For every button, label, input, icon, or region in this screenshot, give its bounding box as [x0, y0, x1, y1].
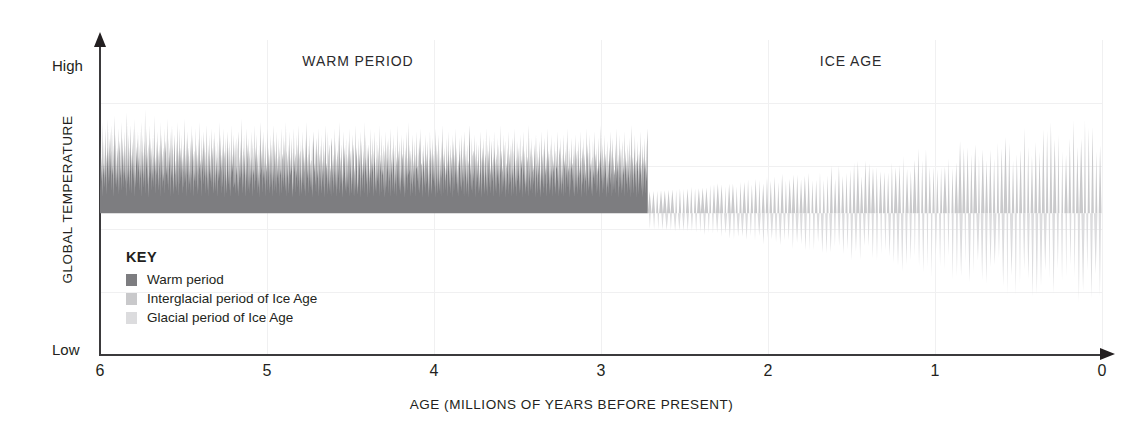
- x-axis-tick-0: 0: [1087, 362, 1117, 380]
- legend-items: Warm periodInterglacial period of Ice Ag…: [126, 272, 317, 325]
- gridline-vertical: [1102, 40, 1103, 354]
- warm-period-area: [100, 109, 648, 213]
- legend-item: Interglacial period of Ice Age: [126, 291, 317, 306]
- interglacial-period-area: [648, 120, 1102, 213]
- y-axis-title: GLOBAL TEMPERATURE: [60, 100, 75, 300]
- legend-swatch-icon: [126, 274, 137, 286]
- chart-page: High Low GLOBAL TEMPERATURE AGE (MILLION…: [0, 0, 1143, 431]
- glacial-period-area: [649, 213, 1101, 302]
- legend-item-label: Interglacial period of Ice Age: [147, 291, 317, 306]
- x-axis-tick-3: 3: [586, 362, 616, 380]
- x-axis-tick-6: 6: [85, 362, 115, 380]
- annotation-warm-period: WARM PERIOD: [302, 53, 413, 69]
- legend-title: KEY: [126, 249, 317, 265]
- y-axis-high-label: High: [52, 57, 98, 74]
- x-axis-tick-4: 4: [419, 362, 449, 380]
- chart-legend: KEY Warm periodInterglacial period of Ic…: [126, 249, 317, 329]
- legend-item-label: Warm period: [147, 272, 224, 287]
- x-axis-tick-2: 2: [753, 362, 783, 380]
- legend-swatch-icon: [126, 293, 137, 305]
- y-axis-low-label: Low: [52, 341, 98, 358]
- x-axis-arrow-icon: [1100, 348, 1115, 360]
- legend-item: Warm period: [126, 272, 317, 287]
- legend-item: Glacial period of Ice Age: [126, 310, 317, 325]
- x-axis-tick-5: 5: [252, 362, 282, 380]
- x-axis-tick-1: 1: [920, 362, 950, 380]
- legend-swatch-icon: [126, 312, 137, 324]
- legend-item-label: Glacial period of Ice Age: [147, 310, 293, 325]
- x-axis-title: AGE (MILLIONS OF YEARS BEFORE PRESENT): [0, 397, 1143, 412]
- annotation-ice-age: ICE AGE: [820, 53, 882, 69]
